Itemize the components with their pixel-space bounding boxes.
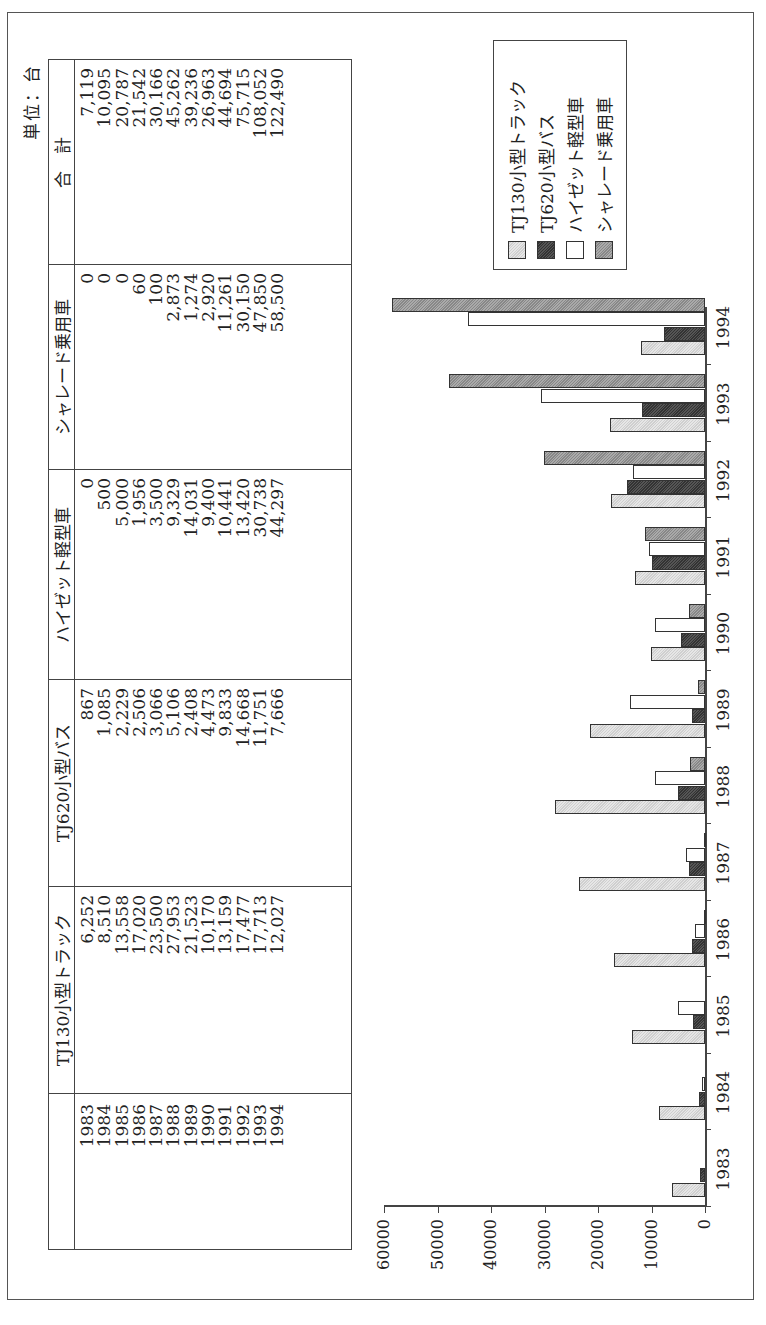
col-total: 7,11910,09520,78721,54230,16645,26239,23… (75, 60, 352, 265)
bar-tj620 (693, 1016, 705, 1030)
unit-label: 単位：台 (18, 64, 43, 140)
bar-tj130 (659, 1107, 705, 1121)
legend-swatch-icon (537, 241, 555, 259)
bar-tj620 (700, 1169, 705, 1183)
y-tick-label: 0 (695, 1219, 714, 1285)
x-tick-label: 1984 (713, 1055, 733, 1131)
data-table: TJ130小型トラック TJ620小型バス ハイゼット軽型車 シャレード乗用車 … (48, 59, 352, 1250)
bar-charade (689, 604, 705, 618)
x-tick (705, 670, 711, 671)
col-tj130: 6,2528,51013,55817,02023,50027,95321,523… (75, 887, 352, 1094)
col-years: 1983198419851986198719881989199019911992… (75, 1094, 352, 1250)
bar-charade (544, 451, 705, 465)
legend-label: TJ620小型バス (533, 114, 558, 233)
x-tick-label: 1993 (713, 366, 733, 442)
table-cell: 1,085 (96, 688, 113, 886)
y-tick (545, 1207, 546, 1213)
y-tick-label: 50000 (428, 1219, 447, 1285)
bar-tj620 (627, 480, 705, 494)
y-tick (705, 1207, 706, 1213)
x-tick-label: 1991 (713, 519, 733, 595)
y-tick (598, 1207, 599, 1213)
chart-legend: TJ130小型トラックTJ620小型バスハイゼット軽型車シャレード乗用車 (493, 40, 627, 270)
x-tick-label: 1988 (713, 749, 733, 825)
bar-tj620 (692, 710, 705, 724)
table-cell: 44,297 (269, 478, 286, 679)
x-tick (705, 900, 711, 901)
legend-label: ハイゼット軽型車 (562, 97, 587, 233)
bar-hijet (468, 313, 705, 327)
bar-tj620 (692, 939, 705, 953)
table-cell: 1984 (96, 1104, 113, 1249)
category-axis (705, 307, 707, 1207)
table-cell: 58,500 (269, 273, 286, 469)
x-tick (705, 441, 711, 442)
bar-tj130 (611, 495, 705, 509)
legend-item: TJ130小型トラック (502, 51, 531, 259)
table-cell: 0 (96, 273, 113, 469)
table-body: 1983198419851986198719881989199019911992… (75, 60, 352, 1250)
header-total: 合 計 (49, 60, 75, 265)
header-tj130: TJ130小型トラック (49, 887, 75, 1094)
bar-tj130 (635, 571, 705, 585)
bar-tj130 (579, 877, 705, 891)
y-tick-label: 10000 (642, 1219, 661, 1285)
bar-hijet (630, 695, 705, 709)
legend-label: シャレード乗用車 (591, 97, 616, 233)
x-tick-label: 1985 (713, 978, 733, 1054)
y-tick (652, 1207, 653, 1213)
bar-charade (645, 528, 705, 542)
legend-item: ハイゼット軽型車 (560, 51, 589, 259)
bar-hijet (655, 772, 705, 786)
x-tick (705, 517, 711, 518)
x-tick (705, 364, 711, 365)
table-cell: 1994 (269, 1104, 286, 1249)
table-cell: 0 (114, 273, 131, 469)
x-tick-label: 1987 (713, 825, 733, 901)
bar-hijet (633, 466, 705, 480)
legend-swatch-icon (566, 241, 584, 259)
bar-tj130 (672, 1183, 705, 1197)
x-tick-label: 1990 (713, 596, 733, 672)
x-tick-label: 1994 (713, 290, 733, 366)
bar-hijet (541, 389, 705, 403)
bar-tj130 (641, 342, 705, 356)
bar-tj620 (681, 633, 705, 647)
bar-hijet (686, 848, 705, 862)
legend-swatch-icon (595, 241, 613, 259)
x-tick-label: 1992 (713, 443, 733, 519)
table-cell: 500 (96, 478, 113, 679)
y-tick (438, 1207, 439, 1213)
x-tick-label: 1983 (713, 1131, 733, 1207)
y-tick (384, 1207, 385, 1213)
bar-charade (449, 375, 705, 389)
col-charade: 000601002,8731,2742,92011,26130,15047,85… (75, 265, 352, 470)
bar-tj130 (590, 724, 705, 738)
bar-tj620 (642, 404, 705, 418)
y-tick-label: 20000 (588, 1219, 607, 1285)
legend-item: TJ620小型バス (531, 51, 560, 259)
bar-tj620 (689, 863, 705, 877)
bar-tj620 (664, 327, 705, 341)
bar-hijet (702, 1078, 705, 1092)
col-tj620: 8671,0852,2292,5063,0665,1062,4084,4739,… (75, 680, 352, 887)
bar-hijet (649, 542, 705, 556)
x-tick (705, 823, 711, 824)
table-cell: 8,510 (96, 895, 113, 1093)
legend-swatch-icon (508, 241, 526, 259)
bar-charade (698, 681, 705, 695)
bar-tj620 (652, 557, 705, 571)
bar-hijet (678, 1001, 705, 1015)
x-tick (705, 1129, 711, 1130)
y-tick (491, 1207, 492, 1213)
x-tick-label: 1986 (713, 902, 733, 978)
x-tick (705, 976, 711, 977)
x-tick (705, 594, 711, 595)
legend-label: TJ130小型トラック (504, 80, 529, 233)
table-cell: 7,666 (269, 688, 286, 886)
bar-charade (704, 834, 706, 848)
table-header-row: TJ130小型トラック TJ620小型バス ハイゼット軽型車 シャレード乗用車 … (49, 60, 75, 1250)
bar-charade (704, 910, 706, 924)
bar-tj130 (610, 418, 705, 432)
bar-tj620 (699, 1092, 705, 1106)
